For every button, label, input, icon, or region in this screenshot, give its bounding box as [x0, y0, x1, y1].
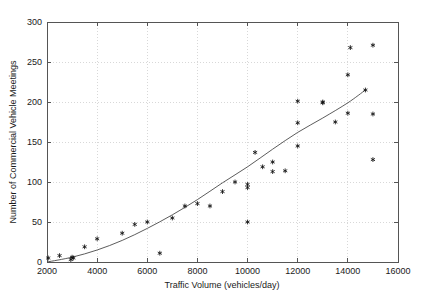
chart-figure: 200040006000800010000120001400016000 050…	[0, 0, 422, 302]
y-tick-label: 200	[27, 97, 42, 107]
y-tick-label: 50	[32, 217, 42, 227]
x-tick-label: 6000	[137, 266, 157, 276]
scatter-plot-svg: 200040006000800010000120001400016000 050…	[0, 0, 422, 302]
y-tick-label: 250	[27, 57, 42, 67]
x-tick-label: 2000	[37, 266, 57, 276]
x-tick-label: 14000	[335, 266, 360, 276]
x-tick-label: 16000	[385, 266, 410, 276]
y-tick-label: 150	[27, 137, 42, 147]
x-axis-title: Traffic Volume (vehicles/day)	[164, 280, 279, 290]
y-tick-label: 100	[27, 177, 42, 187]
x-tick-label: 4000	[87, 266, 107, 276]
y-tick-label: 300	[27, 17, 42, 27]
x-tick-label: 8000	[187, 266, 207, 276]
y-tick-label: 0	[37, 257, 42, 267]
x-tick-label: 12000	[285, 266, 310, 276]
x-tick-label: 10000	[235, 266, 260, 276]
y-axis-title: Number of Commercial Vehicle Meetings	[8, 60, 18, 224]
figure-background	[0, 0, 422, 302]
